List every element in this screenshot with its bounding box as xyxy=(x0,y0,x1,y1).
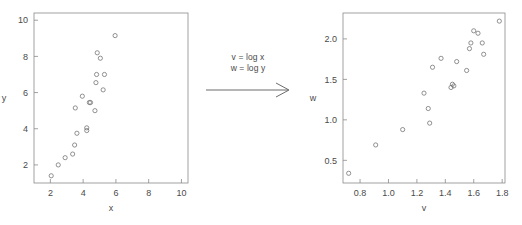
x-tick-label: 1.0 xyxy=(382,188,395,198)
data-point xyxy=(482,52,486,56)
data-point xyxy=(93,109,97,113)
data-point xyxy=(467,47,471,51)
figure-container: 246810246810xy v = log x w = log y 0.81.… xyxy=(0,0,522,225)
data-point xyxy=(113,34,117,38)
left-plot-svg: 246810246810xy xyxy=(0,0,200,225)
x-tick-label: 1.4 xyxy=(439,188,452,198)
x-tick-label: 1.6 xyxy=(467,188,480,198)
plot-frame xyxy=(343,13,505,183)
x-tick-label: 10 xyxy=(176,188,186,198)
plot-frame xyxy=(34,13,188,183)
transform-annotation: v = log x w = log y xyxy=(196,52,300,122)
data-point xyxy=(95,51,99,55)
data-point xyxy=(374,143,378,147)
data-point xyxy=(63,156,67,160)
y-tick-label: 1.5 xyxy=(324,75,337,85)
data-point xyxy=(497,19,501,23)
data-point xyxy=(472,29,476,33)
x-tick-label: 1.8 xyxy=(496,188,509,198)
data-point xyxy=(101,88,105,92)
y-tick-label: 4 xyxy=(23,124,28,134)
y-axis-label: w xyxy=(309,93,317,103)
x-tick-label: 1.2 xyxy=(411,188,424,198)
annotation-line-2: w = log y xyxy=(196,63,300,74)
data-point xyxy=(428,121,432,125)
data-point xyxy=(347,171,351,175)
y-tick-label: 1.0 xyxy=(324,115,337,125)
data-point xyxy=(80,94,84,98)
y-tick-label: 2 xyxy=(23,160,28,170)
data-point xyxy=(401,127,405,131)
annotation-line-1: v = log x xyxy=(196,52,300,63)
data-point xyxy=(49,174,53,178)
data-point xyxy=(102,72,106,76)
scatter-plot-left: 246810246810xy xyxy=(0,0,200,225)
data-point xyxy=(71,152,75,156)
data-point xyxy=(480,41,484,45)
data-point xyxy=(98,56,102,60)
y-axis-label: y xyxy=(2,93,7,103)
scatter-plot-right: 0.81.01.21.41.61.80.51.01.52.0vw xyxy=(300,0,522,225)
data-point xyxy=(430,65,434,69)
y-tick-label: 10 xyxy=(18,15,28,25)
x-axis-label: v xyxy=(422,203,427,213)
data-point xyxy=(439,56,443,60)
data-point xyxy=(75,131,79,135)
data-point xyxy=(469,41,473,45)
y-tick-label: 8 xyxy=(23,52,28,62)
data-point xyxy=(85,128,89,132)
data-point xyxy=(56,163,60,167)
right-plot-svg: 0.81.01.21.41.61.80.51.01.52.0vw xyxy=(300,0,522,225)
data-point xyxy=(94,72,98,76)
x-axis-label: x xyxy=(109,203,114,213)
data-point xyxy=(465,68,469,72)
x-tick-label: 0.8 xyxy=(354,188,367,198)
data-point xyxy=(73,143,77,147)
data-point xyxy=(94,81,98,85)
y-tick-label: 0.5 xyxy=(324,156,337,166)
x-tick-label: 4 xyxy=(81,188,86,198)
y-tick-label: 2.0 xyxy=(324,34,337,44)
data-point xyxy=(476,31,480,35)
data-point xyxy=(455,59,459,63)
data-point xyxy=(426,106,430,110)
data-point xyxy=(422,91,426,95)
x-tick-label: 2 xyxy=(48,188,53,198)
x-tick-label: 6 xyxy=(113,188,118,198)
y-tick-label: 6 xyxy=(23,88,28,98)
x-tick-label: 8 xyxy=(146,188,151,198)
data-point xyxy=(73,106,77,110)
arrow-icon xyxy=(196,78,300,108)
